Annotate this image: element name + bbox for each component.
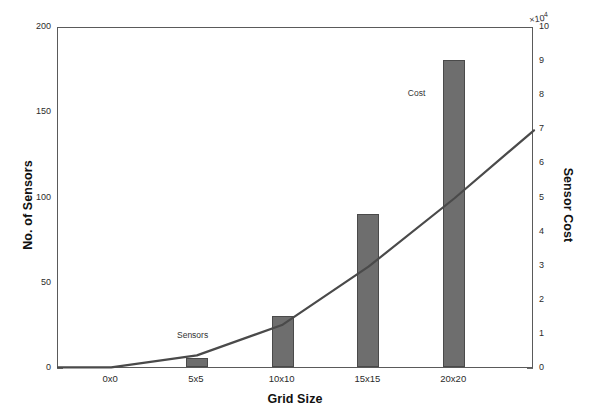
x-axis-tick-label: 5x5: [166, 373, 226, 384]
y-axis-right-tick-label: 1: [539, 328, 579, 338]
line-series-cost: [58, 28, 534, 369]
x-axis-title: Grid Size: [57, 392, 533, 406]
y-axis-right-tick-label: 2: [539, 294, 579, 304]
y-axis-left-title: No. of Sensors: [21, 125, 35, 285]
y-axis-left-tick-label: 100: [11, 192, 51, 202]
x-axis-tick-label: 20x20: [423, 373, 483, 384]
x-axis-tick-label: 10x10: [252, 373, 312, 384]
y-axis-left-tick-label: 200: [11, 21, 51, 31]
series-annotation-sensors: Sensors: [177, 330, 208, 340]
y-axis-left-tick-label: 150: [11, 106, 51, 116]
plot-area: SensorsCost: [57, 27, 533, 368]
x-axis-tick-label: 15x15: [337, 373, 397, 384]
y-axis-right-tick-label: 9: [539, 55, 579, 65]
y-axis-left-tick-label: 0: [11, 362, 51, 372]
cost-line-path: [58, 130, 534, 367]
y-axis-right-tick-label: 10: [539, 21, 579, 31]
x-axis-tick-label: 0x0: [80, 373, 140, 384]
y-axis-right-tick-label: 5: [539, 192, 579, 202]
y-axis-left-tick-label: 50: [11, 277, 51, 287]
y-axis-right-tick-label: 0: [539, 362, 579, 372]
y-axis-right-tick-label: 6: [539, 157, 579, 167]
y-axis-right-tick-label: 8: [539, 89, 579, 99]
y-axis-right-tick-label: 3: [539, 260, 579, 270]
y-axis-right-tick-label: 7: [539, 123, 579, 133]
exponent-power: 4: [543, 10, 548, 17]
series-annotation-cost: Cost: [408, 88, 425, 98]
y-axis-right-tick-label: 4: [539, 226, 579, 236]
chart-figure: No. of Sensors Sensor Cost Grid Size ×10…: [0, 0, 592, 418]
